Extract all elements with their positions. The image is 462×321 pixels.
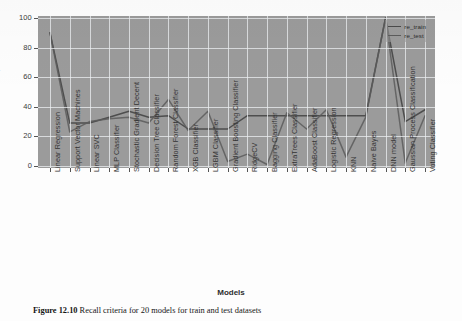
x-tick-mark-1 xyxy=(70,168,71,172)
x-tick-mark-5 xyxy=(149,168,150,172)
figure-container: re_train re_test 020406080100Linear Regr… xyxy=(0,0,462,321)
x-tick-label-linear-regression: Linear Regression xyxy=(53,112,62,172)
x-tick-mark-15 xyxy=(346,168,347,172)
x-tick-label-lgbm-classifier: LGBM Classifier xyxy=(211,119,220,172)
x-tick-mark-8 xyxy=(208,168,209,172)
x-tick-label-bagging-classifier: Bagging Classifier xyxy=(270,112,279,172)
y-tick-label-80: 80 xyxy=(2,43,32,52)
y-tick-label-0: 0 xyxy=(2,161,32,170)
x-tick-label-voting-classifier: Voting Classifier xyxy=(428,119,437,172)
x-tick-label-mlp-classifier: MLP Classifier xyxy=(112,124,121,172)
x-tick-label-support-vector-machines: Support Vector Machines xyxy=(73,89,82,172)
x-tick-mark-11 xyxy=(267,168,268,172)
x-tick-label-decision-tree-classifier: Decision Tree Classifier xyxy=(152,94,161,172)
y-tick-mark-40 xyxy=(34,107,38,108)
x-tick-label-random-forest-classifier: Random Forest Classifier xyxy=(171,89,180,172)
x-tick-label-xgb-classifier: XGB Classifier xyxy=(191,124,200,172)
x-tick-mark-12 xyxy=(287,168,288,172)
x-tick-label-ridgecv: RidgeCV xyxy=(250,143,259,172)
y-tick-mark-0 xyxy=(34,166,38,167)
x-tick-mark-2 xyxy=(90,168,91,172)
x-tick-mark-18 xyxy=(405,168,406,172)
figure-caption-text: Recall criteria for 20 models for train … xyxy=(80,306,262,315)
x-tick-label-gradient-boosting-classifier: Gradient Boosting Classifier xyxy=(231,80,240,172)
x-tick-label-stochastic-gradient-decent: Stochastic Gradient Decent xyxy=(132,82,141,172)
x-tick-mark-6 xyxy=(168,168,169,172)
x-tick-mark-14 xyxy=(326,168,327,172)
x-axis-title: Models xyxy=(0,288,462,297)
y-tick-mark-20 xyxy=(34,136,38,137)
y-tick-label-60: 60 xyxy=(2,72,32,81)
x-tick-label-knn: KNN xyxy=(349,157,358,172)
x-tick-label-linear-svc: Linear SVC xyxy=(92,134,101,172)
y-tick-mark-80 xyxy=(34,48,38,49)
x-tick-mark-19 xyxy=(425,168,426,172)
x-tick-mark-0 xyxy=(50,168,51,172)
chart-axis-layer: 020406080100Linear RegressionSupport Vec… xyxy=(0,0,462,321)
y-axis-title: re, % xyxy=(0,60,1,78)
x-tick-label-naive-bayes: Naive Bayes xyxy=(369,131,378,172)
x-tick-mark-17 xyxy=(386,168,387,172)
x-tick-label-adaboost-classifier: AdaBoost Classifier xyxy=(310,107,319,172)
x-tick-mark-10 xyxy=(247,168,248,172)
figure-caption-label: Figure 12.10 xyxy=(33,306,78,315)
y-tick-label-20: 20 xyxy=(2,131,32,140)
y-tick-mark-60 xyxy=(34,77,38,78)
x-tick-label-extratrees-classifier: ExtraTrees Classifier xyxy=(290,103,299,172)
y-tick-mark-100 xyxy=(34,18,38,19)
x-tick-label-gaussian-process-classification: Gaussian Process Classification xyxy=(408,66,417,172)
y-tick-label-40: 40 xyxy=(2,102,32,111)
x-tick-label-dnn-model: DNN model xyxy=(389,134,398,172)
x-tick-mark-16 xyxy=(366,168,367,172)
x-tick-mark-3 xyxy=(109,168,110,172)
figure-caption: Figure 12.10 Recall criteria for 20 mode… xyxy=(33,305,453,319)
x-tick-mark-7 xyxy=(188,168,189,172)
x-tick-mark-4 xyxy=(129,168,130,172)
x-tick-label-logistic-regression: Logistic Regression xyxy=(329,107,338,172)
y-tick-label-100: 100 xyxy=(2,13,32,22)
x-tick-mark-9 xyxy=(228,168,229,172)
x-tick-mark-13 xyxy=(307,168,308,172)
